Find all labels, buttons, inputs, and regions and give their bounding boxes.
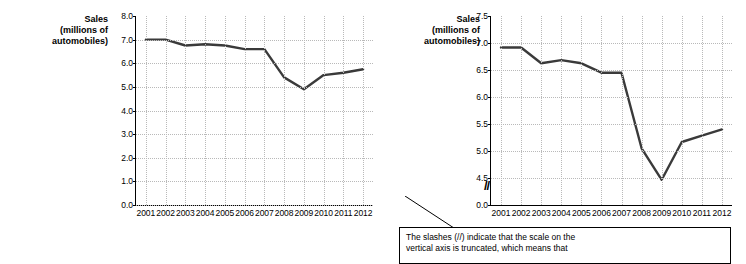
right-axis-title-sales: Sales: [380, 14, 480, 25]
horizontal-gridline: [136, 134, 373, 135]
x-tick-label: 2008: [632, 208, 651, 218]
horizontal-gridline: [136, 87, 373, 88]
left-axis-title-sales: Sales: [8, 14, 108, 25]
x-tick-label: 2007: [255, 208, 274, 218]
vertical-gridline: [245, 16, 246, 205]
horizontal-gridline: [136, 40, 373, 41]
left-chart-y-axis-title: Sales (millions of automobiles): [8, 14, 108, 47]
axis-truncation-slashes: //: [484, 178, 489, 193]
right-chart: Sales (millions of automobiles) 0.04.55.…: [380, 0, 746, 230]
y-tick-label: 7.0: [476, 38, 488, 48]
horizontal-gridline: [491, 97, 732, 98]
horizontal-gridline: [136, 205, 373, 206]
y-tick-label: 6.5: [476, 65, 488, 75]
left-chart: Sales (millions of automobiles) 0.01.02.…: [0, 0, 390, 230]
y-tick-label: 0.0: [121, 200, 133, 210]
x-tick-label: 2004: [552, 208, 571, 218]
x-tick-label: 2009: [652, 208, 671, 218]
y-tick-label: 5.0: [121, 82, 133, 92]
x-tick-label: 2012: [712, 208, 731, 218]
y-tick-label: 6.0: [476, 92, 488, 102]
horizontal-gridline: [136, 111, 373, 112]
x-tick-label: 2001: [136, 208, 155, 218]
right-plot-area: 0.04.55.05.56.06.57.07.52001200220032004…: [490, 16, 732, 206]
right-axis-title-automobiles: automobiles): [380, 36, 480, 47]
horizontal-gridline: [491, 70, 732, 71]
vertical-gridline: [601, 16, 602, 205]
x-tick-label: 2011: [334, 208, 352, 218]
left-plot-area: 0.01.02.03.04.05.06.07.08.02001200220032…: [135, 16, 373, 206]
left-axis-title-automobiles: automobiles): [8, 36, 108, 47]
x-tick-label: 2002: [156, 208, 175, 218]
x-tick-label: 2001: [492, 208, 511, 218]
x-tick-label: 2005: [215, 208, 234, 218]
horizontal-gridline: [491, 43, 732, 44]
callout-line-2: vertical axis is truncated, which means …: [406, 243, 724, 254]
y-tick-mark: [488, 16, 491, 17]
horizontal-gridline: [136, 63, 373, 64]
vertical-gridline: [264, 16, 265, 205]
y-tick-label: 3.0: [121, 129, 133, 139]
y-tick-label: 7.0: [121, 35, 133, 45]
vertical-gridline: [343, 16, 344, 205]
x-tick-label: 2006: [592, 208, 611, 218]
x-tick-label: 2008: [275, 208, 294, 218]
horizontal-gridline: [136, 158, 373, 159]
y-tick-label: 4.0: [121, 106, 133, 116]
horizontal-gridline: [491, 178, 732, 179]
vertical-gridline: [722, 16, 723, 205]
y-tick-mark: [133, 16, 136, 17]
y-tick-mark: [488, 205, 491, 206]
horizontal-gridline: [491, 124, 732, 125]
x-tick-label: 2003: [532, 208, 551, 218]
x-tick-label: 2009: [294, 208, 313, 218]
x-tick-label: 2007: [612, 208, 631, 218]
callout-line-1: The slashes (//) indicate that the scale…: [406, 232, 724, 243]
vertical-gridline: [185, 16, 186, 205]
y-tick-label: 1.0: [121, 176, 133, 186]
x-tick-label: 2005: [572, 208, 591, 218]
vertical-gridline: [166, 16, 167, 205]
vertical-gridline: [324, 16, 325, 205]
x-tick-label: 2012: [354, 208, 373, 218]
x-tick-label: 2010: [314, 208, 333, 218]
horizontal-gridline: [491, 151, 732, 152]
vertical-gridline: [561, 16, 562, 205]
vertical-gridline: [363, 16, 364, 205]
horizontal-gridline: [136, 181, 373, 182]
vertical-gridline: [682, 16, 683, 205]
vertical-gridline: [146, 16, 147, 205]
vertical-gridline: [284, 16, 285, 205]
vertical-gridline: [304, 16, 305, 205]
vertical-gridline: [501, 16, 502, 205]
y-tick-label: 5.5: [476, 119, 488, 129]
x-tick-label: 2002: [512, 208, 531, 218]
y-tick-label: 7.5: [476, 11, 488, 21]
x-tick-label: 2003: [176, 208, 195, 218]
vertical-gridline: [622, 16, 623, 205]
x-tick-label: 2006: [235, 208, 254, 218]
right-chart-y-axis-title: Sales (millions of automobiles): [380, 14, 480, 47]
vertical-gridline: [642, 16, 643, 205]
x-tick-label: 2010: [672, 208, 691, 218]
vertical-gridline: [541, 16, 542, 205]
vertical-gridline: [205, 16, 206, 205]
y-tick-label: 8.0: [121, 11, 133, 21]
y-tick-label: 2.0: [121, 153, 133, 163]
x-tick-label: 2011: [693, 208, 711, 218]
right-axis-title-millions: (millions of: [380, 25, 480, 36]
vertical-gridline: [521, 16, 522, 205]
vertical-gridline: [662, 16, 663, 205]
x-tick-label: 2004: [196, 208, 215, 218]
vertical-gridline: [702, 16, 703, 205]
left-axis-title-millions: (millions of: [8, 25, 108, 36]
callout-box: The slashes (//) indicate that the scale…: [399, 227, 731, 264]
vertical-gridline: [225, 16, 226, 205]
y-tick-label: 6.0: [121, 58, 133, 68]
y-tick-label: 0.0: [476, 200, 488, 210]
vertical-gridline: [581, 16, 582, 205]
y-tick-label: 5.0: [476, 146, 488, 156]
